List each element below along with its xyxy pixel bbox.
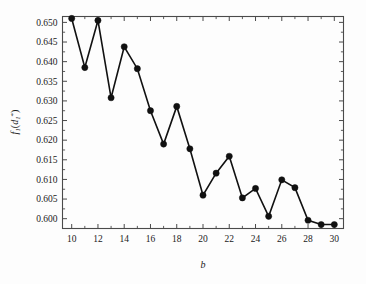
data-point (266, 213, 272, 219)
y-ticklabel: 0.600 (36, 214, 58, 224)
x-axis-title: b (201, 259, 206, 270)
data-point (134, 66, 140, 72)
data-point (108, 95, 114, 101)
y-ticklabel: 0.610 (36, 175, 58, 185)
y-ticklabel: 0.635 (36, 77, 58, 87)
data-point (147, 108, 153, 114)
x-ticklabel: 10 (67, 234, 77, 244)
x-ticklabel: 12 (93, 234, 103, 244)
data-point (95, 17, 101, 23)
x-ticklabel: 18 (172, 234, 182, 244)
x-ticklabel: 20 (198, 234, 208, 244)
data-point (213, 170, 219, 176)
data-point (200, 192, 206, 198)
data-point (69, 15, 75, 21)
y-title-close-paren: ) (9, 110, 21, 113)
y-ticklabel: 0.650 (36, 18, 58, 28)
data-point (239, 195, 245, 201)
figure-container: 1012141618202224262830 0.6500.6450.6400.… (0, 0, 366, 284)
y-ticklabel: 0.625 (36, 116, 58, 126)
data-point (174, 103, 180, 109)
data-point (252, 185, 258, 191)
y-ticklabel: 0.615 (36, 155, 58, 165)
y-ticklabel: 0.645 (36, 37, 58, 47)
y-ticklabel: 0.640 (36, 57, 58, 67)
y-ticklabel: 0.605 (36, 194, 58, 204)
x-ticklabel: 28 (303, 234, 313, 244)
data-point (279, 177, 285, 183)
y-ticklabel: 0.630 (36, 96, 58, 106)
data-point (187, 146, 193, 152)
data-point (305, 217, 311, 223)
data-point (82, 64, 88, 70)
x-ticklabel: 16 (146, 234, 156, 244)
x-ticklabel: 24 (251, 234, 261, 244)
data-point (331, 221, 337, 227)
x-ticklabel: 30 (330, 234, 340, 244)
data-point (161, 141, 167, 147)
y-ticklabel: 0.620 (36, 135, 58, 145)
data-point (318, 221, 324, 227)
data-point (121, 44, 127, 50)
x-ticklabel: 26 (277, 234, 287, 244)
x-ticklabel: 22 (225, 234, 235, 244)
line-chart: 1012141618202224262830 0.6500.6450.6400.… (0, 0, 366, 284)
data-point (226, 153, 232, 159)
data-point (292, 185, 298, 191)
x-ticklabel: 14 (119, 234, 129, 244)
